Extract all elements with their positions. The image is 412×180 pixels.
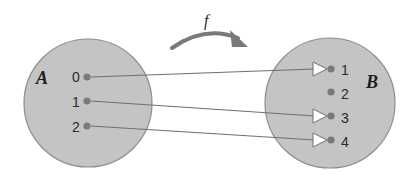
set-b-dot-3 <box>327 112 334 119</box>
set-b-dot-4 <box>327 136 334 143</box>
set-a: A 0 1 2 <box>24 39 152 167</box>
set-a-dot-0 <box>83 73 90 80</box>
set-b-element-3: 3 <box>341 110 349 126</box>
function-mapping-diagram: A 0 1 2 B 1 2 3 4 f <box>0 0 412 180</box>
set-b-element-2: 2 <box>341 86 349 102</box>
set-b-dot-2 <box>327 88 334 95</box>
set-b-element-4: 4 <box>341 134 349 150</box>
set-a-dot-2 <box>83 122 90 129</box>
set-a-label: A <box>35 68 48 88</box>
function-arc <box>172 33 238 48</box>
set-b-dot-1 <box>327 65 334 72</box>
set-a-dot-1 <box>83 97 90 104</box>
function-label: f <box>204 12 211 30</box>
set-b-element-1: 1 <box>341 62 349 78</box>
function-arrow: f <box>172 12 248 48</box>
set-a-element-0: 0 <box>72 69 80 85</box>
set-a-element-1: 1 <box>72 94 80 110</box>
curved-arrow-icon <box>230 30 248 47</box>
set-b-circle <box>265 38 395 168</box>
set-b: B 1 2 3 4 <box>265 38 395 168</box>
set-b-label: B <box>365 72 378 92</box>
set-a-element-2: 2 <box>72 119 80 135</box>
